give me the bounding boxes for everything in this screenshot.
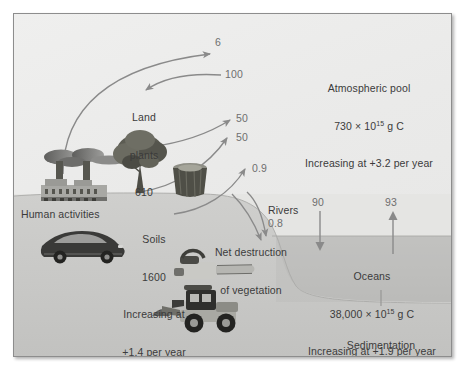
atmospheric-pool-name: Atmospheric pool [284, 82, 452, 95]
atmospheric-pool-stock-exponent: 15 [376, 119, 384, 126]
figure-plate: Atmospheric pool 730 × 1015 g C Increasi… [13, 13, 452, 357]
atmospheric-pool-label: Atmospheric pool 730 × 1015 g C Increasi… [284, 57, 452, 195]
atmospheric-pool-stock-units: g C [384, 120, 404, 132]
net-destruction-label: Net destruction of vegetation [196, 221, 306, 321]
land-plants-label: Land plants 610 [99, 86, 189, 224]
land-plants-name-line2: plants [99, 149, 189, 162]
atmospheric-pool-stock-mult: × 10 [352, 120, 376, 132]
net-destruction-line1: Net destruction [196, 246, 306, 259]
soils-name: Soils [99, 233, 209, 246]
land-plants-name-line1: Land [99, 111, 189, 124]
sedimentation-label: Sedimentation 3 [321, 314, 441, 357]
flow-value-100: 100 [225, 68, 243, 81]
flow-value-90: 90 [312, 196, 324, 209]
atmospheric-pool-trend: Increasing at +3.2 per year [284, 157, 452, 170]
flow-value-6: 6 [215, 36, 221, 49]
land-plants-stock: 610 [99, 186, 189, 199]
atmospheric-pool-stock: 730 × 1015 g C [284, 120, 452, 133]
flow-value-0-8: 0.8 [268, 217, 308, 230]
soils-trend-line1: Increasing at [99, 308, 209, 321]
soils-stock: 1600 [99, 271, 209, 284]
oceans-name: Oceans [292, 270, 452, 283]
atmospheric-pool-stock-value: 730 [334, 120, 352, 132]
flow-value-50b: 50 [236, 131, 248, 144]
net-destruction-line2: of vegetation [196, 284, 306, 297]
flow-value-93: 93 [385, 196, 397, 209]
oceans-stock-exponent: 15 [387, 307, 395, 314]
flow-value-50a: 50 [236, 112, 248, 125]
soils-label: Soils 1600 Increasing at +1.4 per year [99, 208, 209, 357]
carbon-cycle-figure: Atmospheric pool 730 × 1015 g C Increasi… [0, 0, 464, 374]
soils-trend-line2: +1.4 per year [99, 346, 209, 358]
sedimentation-name: Sedimentation [321, 339, 441, 352]
flow-value-0-9: 0.9 [252, 162, 267, 175]
